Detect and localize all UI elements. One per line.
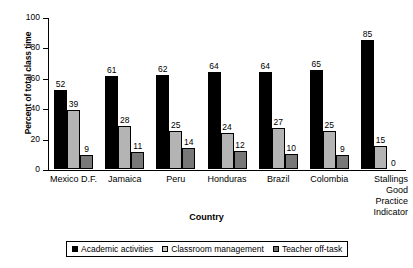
bar[interactable]: 10 — [285, 17, 298, 169]
bar-fill — [118, 126, 131, 169]
bar-group-bars: 85150 — [361, 17, 400, 169]
bar-value-label: 52 — [56, 79, 65, 89]
bar-group-bars: 612811 — [105, 17, 144, 169]
x-axis-category-label-line: Honduras — [207, 174, 246, 185]
bar-fill — [67, 110, 80, 169]
y-axis-tick: 100 — [43, 18, 48, 19]
bar-group-bars: 52399 — [54, 17, 93, 169]
bar-fill — [156, 75, 169, 169]
bar-value-label: 64 — [209, 61, 218, 71]
bar[interactable]: 25 — [323, 17, 336, 169]
bar-value-label: 24 — [222, 122, 231, 132]
bar[interactable]: 64 — [259, 17, 272, 169]
y-axis-tick-label: 40 — [31, 103, 40, 113]
y-axis-tick-label: 0 — [35, 164, 40, 174]
y-axis-tick-label: 60 — [31, 73, 40, 83]
x-axis-category-label: Jamaica — [108, 174, 142, 185]
bar-value-label: 65 — [312, 59, 321, 69]
bar-fill — [285, 154, 298, 169]
legend-item[interactable]: Teacher off-task — [273, 244, 342, 254]
bar[interactable]: 25 — [169, 17, 182, 169]
bar-value-label: 64 — [260, 61, 269, 71]
bar-group: 85150 — [361, 17, 400, 169]
bar-value-label: 62 — [158, 64, 167, 74]
x-axis-category-label-line: Peru — [166, 174, 185, 185]
bar-value-label: 10 — [286, 143, 295, 153]
legend-item[interactable]: Classroom management — [162, 244, 264, 254]
bar-value-label: 39 — [69, 99, 78, 109]
legend-item[interactable]: Academic activities — [72, 244, 153, 254]
bar[interactable]: 9 — [336, 17, 349, 169]
bar-value-label: 12 — [235, 140, 244, 150]
bar-group: 642710 — [259, 17, 298, 169]
bar[interactable]: 39 — [67, 17, 80, 169]
plot-area: 020406080100 523996128116225146424126427… — [48, 18, 406, 170]
bar-fill — [310, 70, 323, 169]
bar[interactable]: 9 — [80, 17, 93, 169]
bar[interactable]: 64 — [208, 17, 221, 169]
bar[interactable]: 14 — [182, 17, 195, 169]
chart-legend: Academic activitiesClassroom managementT… — [66, 241, 348, 257]
x-axis-category-label-line: Jamaica — [108, 174, 142, 185]
bar-fill — [323, 131, 336, 169]
legend-swatch-icon — [273, 246, 279, 252]
x-axis-category-label: Brazil — [267, 174, 290, 185]
bar-group: 612811 — [105, 17, 144, 169]
bar[interactable]: 65 — [310, 17, 323, 169]
bar-fill — [272, 128, 285, 169]
bar[interactable]: 85 — [361, 17, 374, 169]
bar-value-label: 0 — [391, 158, 396, 168]
bar-fill — [259, 72, 272, 169]
bar-group-bars: 642412 — [208, 17, 247, 169]
bar[interactable]: 15 — [374, 17, 387, 169]
legend-label: Teacher off-task — [282, 244, 342, 254]
bar-value-label: 9 — [84, 144, 89, 154]
x-axis-category-label: Mexico D.F. — [50, 174, 97, 185]
bar-fill — [131, 152, 144, 169]
bar-fill — [361, 40, 374, 169]
bar-fill — [374, 146, 387, 169]
y-axis-tick-label: 100 — [26, 12, 40, 22]
bar[interactable]: 0 — [387, 17, 400, 169]
x-axis-category-label: Honduras — [207, 174, 246, 185]
y-axis-tick: 40 — [43, 109, 48, 110]
x-axis-category-label-line: Colombia — [310, 174, 348, 185]
bar-fill — [182, 148, 195, 169]
bar-group-bars: 65259 — [310, 17, 349, 169]
bar-fill — [221, 133, 234, 169]
bar[interactable]: 62 — [156, 17, 169, 169]
bar-fill — [208, 72, 221, 169]
bar-value-label: 27 — [273, 117, 282, 127]
bar-value-label: 25 — [325, 120, 334, 130]
y-axis-line — [48, 18, 49, 171]
bar[interactable]: 28 — [118, 17, 131, 169]
y-axis-tick: 20 — [43, 140, 48, 141]
legend-swatch-icon — [72, 246, 78, 252]
x-axis-category-label-line: Mexico D.F. — [50, 174, 97, 185]
legend-label: Academic activities — [81, 244, 153, 254]
bar-chart: Percent of total class time 020406080100… — [0, 0, 413, 268]
y-axis-tick: 80 — [43, 48, 48, 49]
bar-value-label: 61 — [107, 65, 116, 75]
bar[interactable]: 12 — [234, 17, 247, 169]
x-axis-title: Country — [0, 212, 413, 222]
bar-group: 52399 — [54, 17, 93, 169]
bar-value-label: 15 — [376, 135, 385, 145]
y-axis-tick: 60 — [43, 79, 48, 80]
bar-fill — [336, 155, 349, 169]
bar[interactable]: 27 — [272, 17, 285, 169]
bar-group: 622514 — [156, 17, 195, 169]
bar[interactable]: 24 — [221, 17, 234, 169]
bar[interactable]: 11 — [131, 17, 144, 169]
bar-value-label: 14 — [184, 137, 193, 147]
y-axis-tick-label: 20 — [31, 134, 40, 144]
legend-label: Classroom management — [171, 244, 264, 254]
y-axis-tick: 0 — [43, 170, 48, 171]
bar-fill — [80, 155, 93, 169]
bar-group-bars: 622514 — [156, 17, 195, 169]
bar-fill — [169, 131, 182, 169]
bar-value-label: 85 — [363, 29, 372, 39]
bar[interactable]: 61 — [105, 17, 118, 169]
x-axis-category-label-line: Stallings — [352, 174, 408, 185]
bar[interactable]: 52 — [54, 17, 67, 169]
